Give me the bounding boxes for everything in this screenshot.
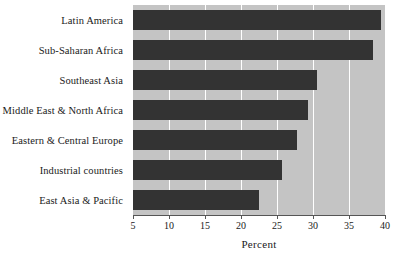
bar-row xyxy=(133,125,385,155)
x-tick-label: 25 xyxy=(272,220,282,231)
bar-row xyxy=(133,155,385,185)
x-tick-label: 5 xyxy=(131,220,136,231)
bar xyxy=(133,40,373,60)
category-label: Sub-Saharan Africa xyxy=(0,35,129,65)
bar-row xyxy=(133,5,385,35)
bar xyxy=(133,10,381,30)
x-tick-mark xyxy=(241,215,242,219)
x-tick-mark xyxy=(169,215,170,219)
x-tick-label: 15 xyxy=(200,220,210,231)
bar-chart: Latin AmericaSub-Saharan AfricaSoutheast… xyxy=(0,0,397,263)
x-tick-mark xyxy=(133,215,134,219)
x-tick-mark xyxy=(277,215,278,219)
category-label: Southeast Asia xyxy=(0,65,129,95)
bar-row xyxy=(133,65,385,95)
category-label: Middle East & North Africa xyxy=(0,95,129,125)
bar xyxy=(133,160,282,180)
bar xyxy=(133,100,308,120)
category-axis: Latin AmericaSub-Saharan AfricaSoutheast… xyxy=(0,5,129,215)
bar xyxy=(133,190,259,210)
plot-area xyxy=(133,5,385,215)
category-label: Eastern & Central Europe xyxy=(0,125,129,155)
x-axis-title: Percent xyxy=(133,238,385,250)
x-tick-mark xyxy=(385,215,386,219)
bar-row xyxy=(133,95,385,125)
category-label: East Asia & Pacific xyxy=(0,185,129,215)
x-tick-label: 40 xyxy=(380,220,390,231)
x-tick-label: 30 xyxy=(308,220,318,231)
category-label: Latin America xyxy=(0,5,129,35)
bar-series xyxy=(133,5,385,215)
bar xyxy=(133,70,317,90)
category-label: Industrial countries xyxy=(0,155,129,185)
x-tick-mark xyxy=(205,215,206,219)
x-tick-label: 35 xyxy=(344,220,354,231)
bar-row xyxy=(133,35,385,65)
x-tick-label: 10 xyxy=(164,220,174,231)
x-tick-mark xyxy=(313,215,314,219)
x-tick-mark xyxy=(349,215,350,219)
bar-row xyxy=(133,185,385,215)
x-axis-ticks: 510152025303540 xyxy=(133,215,385,219)
bar xyxy=(133,130,297,150)
x-tick-label: 20 xyxy=(236,220,246,231)
